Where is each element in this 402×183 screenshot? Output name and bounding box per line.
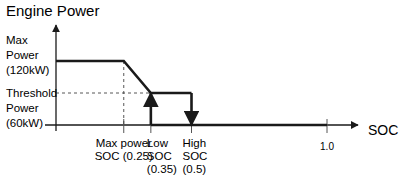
y-label-max_power-line-0: Max <box>6 34 28 46</box>
x-axis-label: SOC <box>368 122 398 138</box>
y-label-max_power-line-2: (120kW) <box>6 64 50 76</box>
x-label-high_soc-line-2: (0.5) <box>183 163 207 175</box>
labels: MaxPower(120kW)ThresholdPower(60kW)Max p… <box>6 34 334 175</box>
x-label-low_soc-line-0: Low <box>147 137 169 149</box>
y-label-threshold_power-line-1: Power <box>6 102 39 114</box>
engine-power-chart: Engine Power MaxPower(120kW)ThresholdPow… <box>0 0 402 183</box>
guides <box>56 61 151 125</box>
series <box>56 61 327 125</box>
chart-title: Engine Power <box>6 2 99 19</box>
power_curve <box>56 61 192 93</box>
x-label-high_soc-line-0: High <box>183 137 207 149</box>
x-label-max_power_soc-line-0: Max power <box>96 137 152 149</box>
x-label-low_soc-line-1: SOC <box>147 150 172 162</box>
axes <box>45 25 358 133</box>
y-label-max_power-line-1: Power <box>6 49 39 61</box>
y-label-threshold_power-line-0: Threshold <box>6 87 57 99</box>
x-label-high_soc-line-1: SOC <box>183 150 208 162</box>
x-label-full_soc-line-0: 1.0 <box>320 141 334 152</box>
y-label-threshold_power-line-2: (60kW) <box>6 117 43 129</box>
x-label-low_soc-line-2: (0.35) <box>147 163 177 175</box>
x-label-max_power_soc-line-1: SOC (0.25) <box>95 150 153 162</box>
